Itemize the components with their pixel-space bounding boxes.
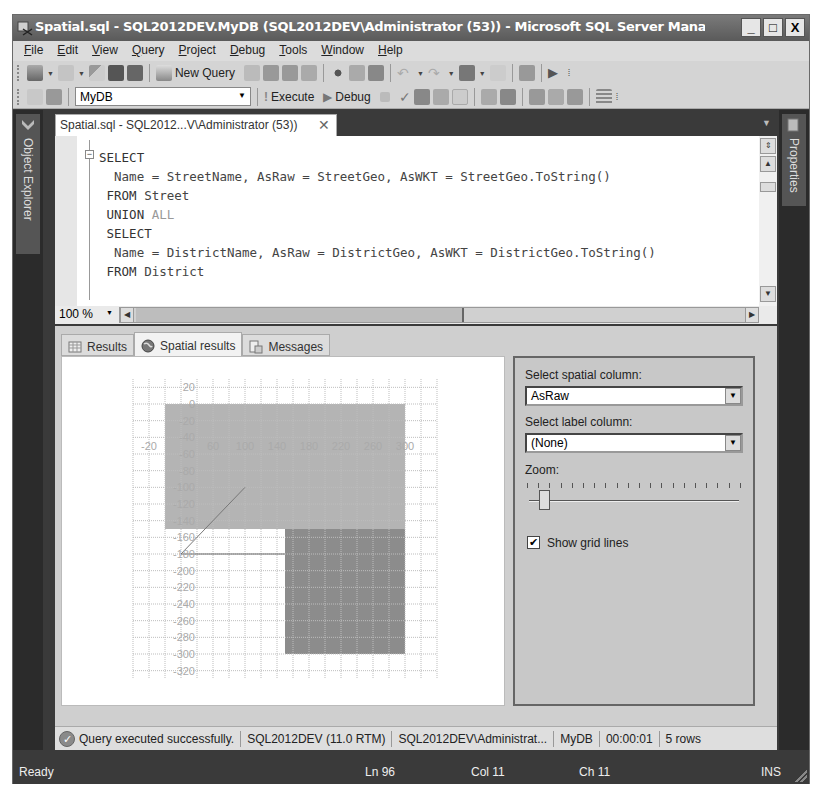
new-project-icon[interactable]	[27, 65, 43, 81]
zoom-slider-thumb[interactable]	[539, 490, 550, 510]
tab-results[interactable]: Results	[61, 334, 134, 356]
y-tick-label: -280	[173, 631, 195, 643]
analysis-mdx-query-icon[interactable]	[263, 65, 279, 81]
label-column-select[interactable]: (None) ▼	[525, 433, 743, 453]
activity-monitor-icon[interactable]	[519, 65, 535, 81]
horizontal-scrollbar[interactable]: ◀ ▶	[119, 307, 759, 323]
navigate-forward-icon[interactable]	[490, 65, 506, 81]
include-actual-plan-icon[interactable]	[500, 89, 516, 105]
cut-icon[interactable]	[330, 65, 346, 81]
tab-spatial-results[interactable]: Spatial results	[134, 332, 242, 356]
toolbar-grip[interactable]	[17, 89, 21, 105]
comment-icon[interactable]	[596, 89, 612, 105]
specify-template-values-icon[interactable]	[481, 89, 497, 105]
results-to-grid-icon[interactable]	[548, 89, 564, 105]
light-polygon[interactable]	[165, 404, 405, 529]
resize-grip[interactable]	[795, 770, 807, 782]
menu-file[interactable]: File	[17, 41, 50, 61]
menu-edit[interactable]: Edit	[50, 41, 85, 61]
add-item-icon[interactable]	[58, 65, 74, 81]
spatial-map[interactable]: -2060100140180220260300200-20-40-60-80-1…	[61, 356, 505, 706]
toolbar-grip[interactable]	[17, 65, 21, 81]
scroll-up-icon[interactable]: ▲	[760, 156, 776, 172]
display-estimated-plan-icon[interactable]	[414, 89, 430, 105]
menu-view[interactable]: View	[85, 41, 125, 61]
new-query-icon[interactable]	[156, 65, 172, 81]
split-icon[interactable]: ⇕	[760, 138, 776, 154]
debug-button[interactable]: Debug	[335, 90, 370, 104]
left-dock: Object Explorer	[13, 110, 43, 750]
execute-button[interactable]: Execute	[271, 90, 314, 104]
query-designer-icon[interactable]	[433, 89, 449, 105]
close-button[interactable]: X	[785, 18, 805, 37]
menu-window[interactable]: Window	[314, 41, 371, 61]
active-files-dropdown-icon[interactable]: ▼	[762, 118, 771, 128]
zoom-combo[interactable]: 100 % ▼	[57, 307, 117, 323]
menu-debug[interactable]: Debug	[223, 41, 272, 61]
menu-project[interactable]: Project	[172, 41, 223, 61]
scroll-thumb[interactable]	[760, 182, 776, 192]
dropdown-arrow-icon[interactable]: ▼	[448, 70, 455, 77]
results-to-file-icon[interactable]	[567, 89, 583, 105]
spatial-map-canvas[interactable]: -2060100140180220260300200-20-40-60-80-1…	[62, 357, 506, 707]
toolbar-separator	[522, 88, 523, 106]
scroll-down-icon[interactable]: ▼	[760, 286, 776, 302]
close-tab-icon[interactable]: ✕	[318, 117, 330, 133]
paste-icon[interactable]	[368, 65, 384, 81]
scroll-thumb[interactable]	[136, 308, 464, 322]
chevron-down-icon: ▼	[238, 91, 246, 100]
include-client-statistics-icon[interactable]	[529, 89, 545, 105]
scroll-right-icon[interactable]: ▶	[745, 307, 759, 323]
dropdown-arrow-icon[interactable]: ▼	[78, 70, 85, 77]
dropdown-arrow-icon[interactable]: ▼	[479, 70, 486, 77]
document-tab-strip: Spatial.sql - SQL2012...V\Administrator …	[47, 112, 777, 136]
query-editor[interactable]: − SELECT Name = StreetName, AsRaw = Stre…	[55, 136, 777, 306]
ssms-app-icon	[17, 20, 33, 36]
dropdown-arrow-icon[interactable]: ▼	[417, 70, 424, 77]
redo-icon[interactable]: ↷	[428, 65, 444, 81]
copy-icon[interactable]	[349, 65, 365, 81]
chevron-down-icon[interactable]: ▼	[725, 435, 741, 451]
database-engine-query-icon[interactable]	[244, 65, 260, 81]
results-to-text-toggle-icon[interactable]	[452, 89, 468, 105]
dark-polygon[interactable]	[285, 529, 405, 654]
analysis-dmx-query-icon[interactable]	[282, 65, 298, 81]
connect-icon[interactable]	[27, 89, 43, 105]
save-icon[interactable]	[108, 65, 124, 81]
tab-messages[interactable]: Messages	[242, 334, 330, 356]
maximize-button[interactable]: □	[763, 18, 783, 37]
object-explorer-tab[interactable]: Object Explorer	[16, 114, 40, 254]
toolbar-overflow-icon[interactable]: ⁞	[568, 68, 571, 78]
spatial-column-select[interactable]: AsRaw ▼	[525, 386, 743, 406]
chevron-down-icon[interactable]: ▼	[725, 388, 741, 404]
menu-tools[interactable]: Tools	[272, 41, 314, 61]
menu-help[interactable]: Help	[371, 41, 410, 61]
menu-query[interactable]: Query	[125, 41, 172, 61]
sql-code[interactable]: SELECT Name = StreetName, AsRaw = Street…	[99, 148, 656, 281]
properties-tab[interactable]: Properties	[782, 114, 806, 206]
save-all-icon[interactable]	[127, 65, 143, 81]
available-databases-combo[interactable]: MyDB ▼	[75, 87, 251, 106]
analysis-xmla-query-icon[interactable]	[301, 65, 317, 81]
slider-tick	[594, 483, 595, 488]
navigate-backward-icon[interactable]	[459, 65, 475, 81]
dropdown-arrow-icon[interactable]: ▼	[47, 70, 54, 77]
zoom-slider-track[interactable]	[529, 500, 739, 502]
scroll-left-icon[interactable]: ◀	[120, 307, 134, 323]
start-debugging-icon[interactable]: ▶	[548, 65, 564, 81]
title-bar[interactable]: Spatial.sql - SQL2012DEV.MyDB (SQL2012DE…	[13, 15, 809, 41]
toolbar-overflow-icon[interactable]: ⁞	[616, 92, 619, 102]
vertical-scrollbar[interactable]: ⇕ ▲ ▼	[759, 136, 777, 306]
slider-tick	[650, 483, 651, 488]
undo-icon[interactable]: ↶	[397, 65, 413, 81]
document-tab-spatial-sql[interactable]: Spatial.sql - SQL2012...V\Administrator …	[55, 114, 337, 136]
show-grid-lines-label[interactable]: Show grid lines	[547, 536, 628, 550]
parse-icon[interactable]: ✓	[399, 89, 411, 105]
minimize-button[interactable]: _	[741, 18, 761, 37]
change-connection-icon[interactable]	[46, 89, 62, 105]
new-query-button[interactable]: New Query	[175, 66, 235, 80]
cancel-query-icon[interactable]	[380, 92, 390, 102]
open-file-icon[interactable]	[89, 65, 105, 81]
collapse-icon[interactable]: −	[85, 150, 94, 159]
show-grid-lines-checkbox[interactable]: ✔	[527, 536, 540, 549]
